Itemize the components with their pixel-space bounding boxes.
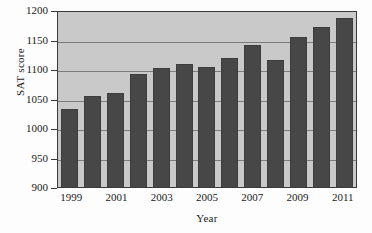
x-tick-label-2007: 2007 [232, 192, 272, 203]
bar-2006 [221, 58, 238, 187]
bar-series [58, 12, 356, 187]
y-tick-mark [51, 41, 57, 42]
bar-1999 [61, 109, 78, 187]
y-tick-mark [51, 11, 57, 12]
bar-2007 [244, 45, 261, 187]
bar-2008 [267, 60, 284, 187]
y-tick-label-1100: 1100 [26, 64, 48, 75]
x-axis-title: Year [57, 212, 357, 224]
y-tick-mark [51, 188, 57, 189]
bar-chart: SAT score 90095010001050110011501200 199… [0, 0, 372, 233]
bar-2010 [313, 27, 330, 187]
y-tick-label-1050: 1050 [26, 94, 48, 105]
y-tick-mark [51, 100, 57, 101]
x-tick-label-2001: 2001 [97, 192, 137, 203]
y-tick-label-1200: 1200 [26, 5, 48, 16]
y-tick-mark [51, 129, 57, 130]
bar-2009 [290, 37, 307, 187]
y-axis-title: SAT score [14, 22, 26, 122]
bar-2003 [153, 68, 170, 187]
y-tick-mark [51, 159, 57, 160]
plot-area [57, 11, 357, 188]
x-tick-label-2003: 2003 [142, 192, 182, 203]
bar-2002 [130, 74, 147, 187]
x-tick-label-1999: 1999 [51, 192, 91, 203]
y-tick-label-1000: 1000 [26, 123, 48, 134]
x-tick-label-2011: 2011 [323, 192, 363, 203]
bar-2005 [198, 67, 215, 187]
y-tick-label-900: 900 [32, 182, 49, 193]
x-tick-label-2009: 2009 [277, 192, 317, 203]
y-tick-mark [51, 70, 57, 71]
y-tick-label-1150: 1150 [26, 35, 48, 46]
y-tick-label-950: 950 [32, 153, 49, 164]
x-tick-label-2005: 2005 [187, 192, 227, 203]
bar-2011 [336, 18, 353, 187]
bar-2000 [84, 96, 101, 187]
bar-2004 [176, 64, 193, 187]
bar-2001 [107, 93, 124, 187]
